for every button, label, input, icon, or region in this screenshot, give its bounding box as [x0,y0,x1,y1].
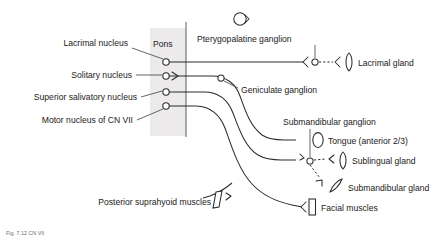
label-posterior-suprahyoid-muscles: Posterior suprahyoid muscles [98,197,211,207]
sublingual-postganglionic-fiber [314,159,326,160]
geniculate-ganglion-marker [218,75,224,81]
sublingual-gland-arrowhead [329,155,334,163]
submandibular-ganglion-arrowhead [300,154,304,160]
pterygopalatine-ganglion-icon [234,13,246,25]
pterygopalatine-ganglion-marker [312,59,318,65]
superior-salivatory-nucleus-marker [163,89,169,95]
label-solitary-nucleus: Solitary nucleus [71,70,132,80]
posterior-suprahyoid-muscles-icon [213,191,222,208]
submandibular-ganglion-marker [307,158,313,164]
label-facial-muscles: Facial muscles [321,203,378,213]
label-lacrimal-gland: Lacrimal gland [358,58,414,68]
label-pterygopalatine-ganglion: Pterygopalatine ganglion [197,34,292,44]
submandibular-postganglionic-fiber [310,165,320,178]
figure-caption: Fig. 7.12 CN VII [6,230,44,236]
label-lacrimal-nucleus: Lacrimal nucleus [64,38,128,48]
submandibular-gland-icon [330,179,342,192]
lacrimal-gland-arrowhead [335,57,340,67]
cn-vii-figure: Pons Lacrimal nucleus Solitary nucleus S… [0,0,430,240]
motor-nucleus-cn-vii-marker [163,103,169,109]
pons-label: Pons [153,39,173,49]
label-sublingual-gland: Sublingual gland [352,156,416,166]
label-motor-nucleus-cn-vii: Motor nucleus of CN VII [42,115,133,125]
label-superior-salivatory-nucleus: Superior salivatory nucleus [34,92,137,102]
facial-muscles-icon [309,199,316,215]
lacrimal-gland-icon [346,53,352,71]
posterior-suprahyoid-arrowhead [226,193,231,200]
label-submandibular-ganglion: Submandibular ganglion [283,117,376,127]
lacrimal-nucleus-marker [163,59,169,65]
submandibular-gland-arrowhead [316,180,322,186]
label-submandibular-gland: Submandibular gland [348,183,429,193]
tongue-icon [313,133,323,148]
label-geniculate-ganglion: Geniculate ganglion [241,85,317,95]
label-tongue-anterior: Tongue (anterior 2/3) [328,136,408,146]
sublingual-gland-icon [340,152,346,169]
solitary-nucleus-marker [163,73,169,79]
